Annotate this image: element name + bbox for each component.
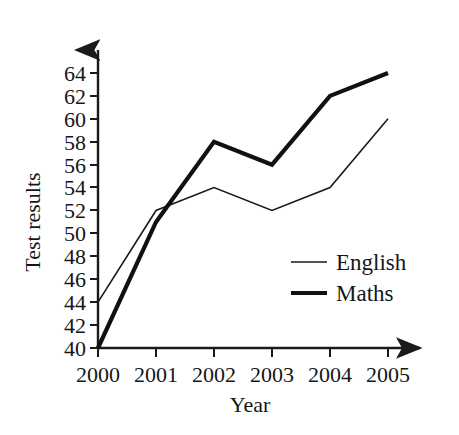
x-tick-label: 2004 xyxy=(308,362,352,387)
y-tick-label: 50 xyxy=(64,221,86,246)
y-tick-label: 40 xyxy=(64,336,86,361)
y-tick-label: 62 xyxy=(64,84,86,109)
y-tick-label: 48 xyxy=(64,244,86,269)
legend-label-maths: Maths xyxy=(336,281,394,306)
y-tick-label: 52 xyxy=(64,198,86,223)
y-axis-tick-labels: 40 42 44 46 48 50 52 54 56 58 60 62 64 xyxy=(64,61,86,361)
y-tick-label: 64 xyxy=(64,61,86,86)
legend: English Maths xyxy=(291,250,407,306)
x-tick-label: 2005 xyxy=(366,362,410,387)
x-axis-tick-labels: 2000 2001 2002 2003 2004 2005 xyxy=(76,362,410,387)
y-tick-label: 54 xyxy=(64,175,86,200)
series-line-maths xyxy=(98,73,388,348)
x-tick-label: 2000 xyxy=(76,362,120,387)
legend-label-english: English xyxy=(336,250,407,275)
x-tick-label: 2002 xyxy=(192,362,236,387)
legend-item-maths: Maths xyxy=(291,281,394,306)
y-tick-label: 60 xyxy=(64,107,86,132)
x-tick-label: 2001 xyxy=(134,362,178,387)
y-tick-label: 58 xyxy=(64,130,86,155)
x-tick-label: 2003 xyxy=(250,362,294,387)
x-axis-ticks xyxy=(98,348,388,357)
y-tick-label: 46 xyxy=(64,267,86,292)
line-chart: 40 42 44 46 48 50 52 54 56 58 60 62 64 2… xyxy=(0,0,459,435)
y-tick-label: 44 xyxy=(64,290,86,315)
chart-canvas: 40 42 44 46 48 50 52 54 56 58 60 62 64 2… xyxy=(0,0,459,435)
y-tick-label: 56 xyxy=(64,153,86,178)
x-axis-title: Year xyxy=(230,392,271,417)
y-axis-title: Test results xyxy=(20,172,45,271)
y-tick-label: 42 xyxy=(64,313,86,338)
legend-item-english: English xyxy=(291,250,407,275)
